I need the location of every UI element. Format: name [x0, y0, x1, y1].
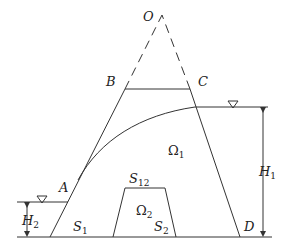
dashed-right-extension — [162, 15, 190, 89]
label-A: A — [58, 180, 68, 195]
seepage-diagram: O B C A D Ω1 Ω2 S12 S1 S2 H1 H2 — [0, 0, 289, 248]
dashed-left-extension — [125, 15, 162, 89]
label-S12: S12 — [129, 171, 149, 188]
label-D: D — [243, 219, 255, 234]
label-H1: H1 — [258, 164, 276, 181]
label-omega2: Ω2 — [136, 203, 153, 220]
label-S1: S1 — [73, 219, 88, 236]
label-C: C — [198, 74, 208, 89]
label-omega1: Ω1 — [168, 143, 185, 160]
label-S2: S2 — [154, 219, 169, 236]
label-H2: H2 — [21, 213, 39, 230]
label-B: B — [105, 74, 116, 89]
label-O: O — [143, 9, 154, 24]
